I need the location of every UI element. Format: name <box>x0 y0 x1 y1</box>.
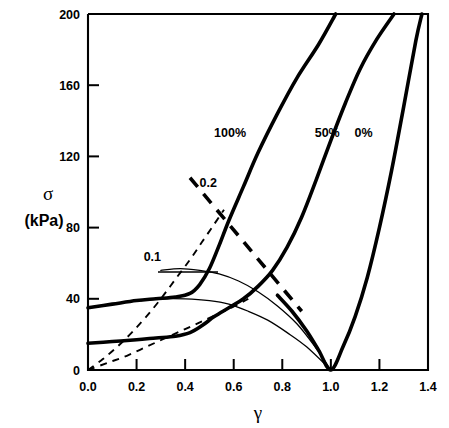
y-axis-title-symbol: σ <box>43 183 53 204</box>
data-series-group <box>88 14 422 370</box>
x-axis-tick-labels: 0.00.20.40.60.81.01.21.4 <box>79 380 436 394</box>
series-50- <box>88 14 394 343</box>
y-axis-title-units: (kPa) <box>24 212 63 229</box>
x-tick-label: 0.6 <box>225 380 242 394</box>
y-tick-label: 40 <box>66 292 80 306</box>
series-fine-dashed-upper <box>88 210 224 370</box>
y-axis-tick-labels: 04080120160200 <box>59 8 80 378</box>
annotation-0-2: 0.2 <box>200 176 217 190</box>
x-tick-label: 0.4 <box>176 380 193 394</box>
y-tick-label: 200 <box>59 8 80 22</box>
series-0-2-heavy-dashed <box>190 178 302 312</box>
x-tick-label: 0.0 <box>79 380 96 394</box>
x-tick-label: 0.2 <box>128 380 145 394</box>
curve-annotations: 100%50%0%0.20.1 <box>144 126 373 265</box>
x-tick-label: 1.4 <box>419 380 436 394</box>
annotation-100-: 100% <box>214 126 246 140</box>
plot-frame <box>88 14 428 370</box>
y-tick-label: 0 <box>73 364 80 378</box>
annotation-0-: 0% <box>355 126 373 140</box>
y-axis-ticks <box>88 14 99 370</box>
x-tick-label: 1.2 <box>371 380 388 394</box>
series-100- <box>88 14 336 308</box>
y-tick-label: 80 <box>66 221 80 235</box>
annotation-0-1: 0.1 <box>144 250 161 264</box>
series-thin-lower-envelope <box>141 299 330 370</box>
x-tick-label: 0.8 <box>274 380 291 394</box>
stress-strain-chart: 04080120160200 0.00.20.40.60.81.01.21.4 … <box>0 0 449 428</box>
y-tick-label: 120 <box>59 150 80 164</box>
series-thin-upper-envelope <box>161 269 331 370</box>
series-0- <box>277 14 422 370</box>
x-tick-label: 1.0 <box>322 380 339 394</box>
x-axis-ticks <box>88 359 428 370</box>
y-tick-label: 160 <box>59 79 80 93</box>
annotation-50-: 50% <box>315 126 340 140</box>
x-axis-title: γ <box>253 402 262 423</box>
chart-svg: 04080120160200 0.00.20.40.60.81.01.21.4 … <box>0 0 449 428</box>
